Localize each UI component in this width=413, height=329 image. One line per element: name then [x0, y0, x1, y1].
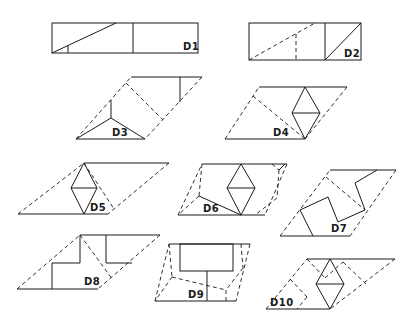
panel-d10: D10	[266, 259, 395, 309]
label-d7: D7	[331, 223, 347, 234]
label-d9: D9	[188, 289, 204, 300]
label-d2: D2	[344, 48, 360, 59]
panel-d2: D2	[249, 23, 361, 60]
panel-d6: D6	[178, 164, 287, 215]
label-d3: D3	[112, 127, 128, 138]
panel-d3: D3	[76, 77, 202, 139]
panel-d5: D5	[18, 163, 169, 214]
panel-d1: D1	[52, 23, 199, 53]
panel-d8: D8	[17, 235, 160, 289]
panel-d7: D7	[280, 170, 396, 236]
label-d8: D8	[84, 276, 100, 287]
label-d4: D4	[273, 127, 289, 138]
label-d10: D10	[270, 297, 294, 308]
label-d6: D6	[203, 203, 219, 214]
label-d1: D1	[183, 41, 199, 52]
panel-d4: D4	[225, 87, 347, 139]
panel-d9: D9	[155, 244, 250, 301]
dissection-diagram: D1 D2 D3 D4	[0, 0, 413, 329]
label-d5: D5	[90, 202, 106, 213]
